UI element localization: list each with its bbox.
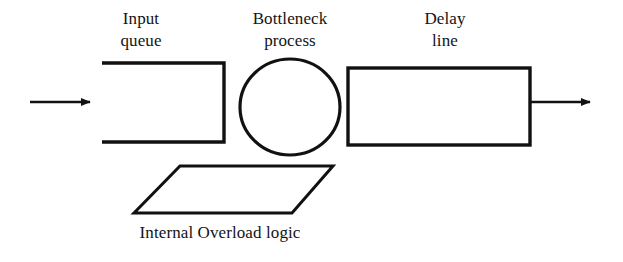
input-queue-label: Input queue: [82, 8, 200, 52]
input-queue-label-line1: Input: [82, 8, 200, 30]
internal-overload-logic-shape: [134, 166, 333, 213]
bottleneck-process-label: Bottleneck process: [215, 8, 365, 52]
block-diagram: Input queue Bottleneck process Delay lin…: [0, 0, 623, 262]
delay-line-shape: [348, 68, 530, 145]
bottleneck-process-label-line2: process: [215, 30, 365, 52]
internal-overload-logic-label-text: Internal Overload logic: [60, 222, 380, 244]
input-queue-shape: [102, 63, 224, 142]
bottleneck-process-label-line1: Bottleneck: [215, 8, 365, 30]
delay-line-label-line2: line: [380, 30, 510, 52]
bottleneck-process-shape: [240, 59, 340, 155]
internal-overload-logic-label: Internal Overload logic: [60, 222, 380, 244]
delay-line-label-line1: Delay: [380, 8, 510, 30]
delay-line-label: Delay line: [380, 8, 510, 52]
input-queue-label-line2: queue: [82, 30, 200, 52]
